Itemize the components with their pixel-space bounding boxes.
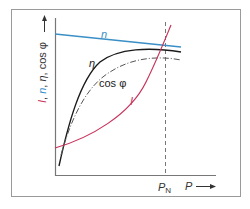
y-axis-label: I, n, η, cos φ — [36, 42, 48, 103]
x-axis-label: P — [185, 180, 193, 192]
cosphi-curve — [61, 58, 181, 155]
I-label: I — [130, 95, 133, 107]
svg-text:I, n, η, cos φ: I, n, η, cos φ — [36, 42, 48, 103]
n-label: n — [101, 28, 107, 40]
eta-curve — [59, 49, 181, 166]
eta-label: η — [89, 57, 95, 69]
cosphi-label: cos φ — [99, 77, 126, 89]
x-axis-arrowhead-icon — [210, 184, 216, 189]
motor-characteristics-diagram: n η cos φ I PN P I, n, η, cos φ — [0, 0, 250, 209]
pn-tick-label: PN — [158, 181, 171, 195]
y-axis-arrowhead-icon — [42, 15, 47, 21]
